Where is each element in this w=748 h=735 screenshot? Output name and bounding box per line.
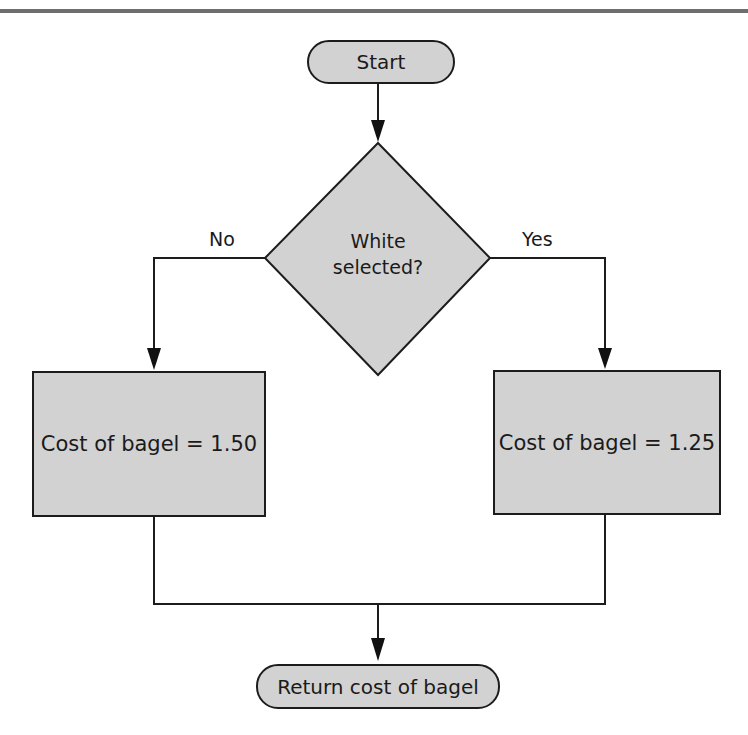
no-branch-process-box: Cost of bagel = 1.50 (32, 371, 266, 517)
connector-lines (0, 0, 748, 735)
arrow-start-to-decision (371, 84, 385, 142)
yes-branch-label: Cost of bagel = 1.25 (499, 431, 715, 455)
no-label: No (209, 228, 235, 250)
end-label: Return cost of bagel (277, 675, 479, 699)
start-label: Start (357, 50, 406, 74)
arrow-no-branch (147, 258, 265, 370)
decision-label-line2: selected? (303, 254, 453, 280)
yes-branch-process-box: Cost of bagel = 1.25 (493, 370, 721, 515)
start-node: Start (307, 40, 455, 84)
arrow-yes-branch (490, 258, 612, 369)
decision-label-line1: White (303, 228, 453, 254)
no-branch-label: Cost of bagel = 1.50 (41, 432, 257, 456)
decision-label: White selected? (303, 228, 453, 280)
yes-label: Yes (522, 228, 553, 250)
arrow-merge-to-end (154, 514, 605, 661)
end-node: Return cost of bagel (256, 664, 500, 709)
